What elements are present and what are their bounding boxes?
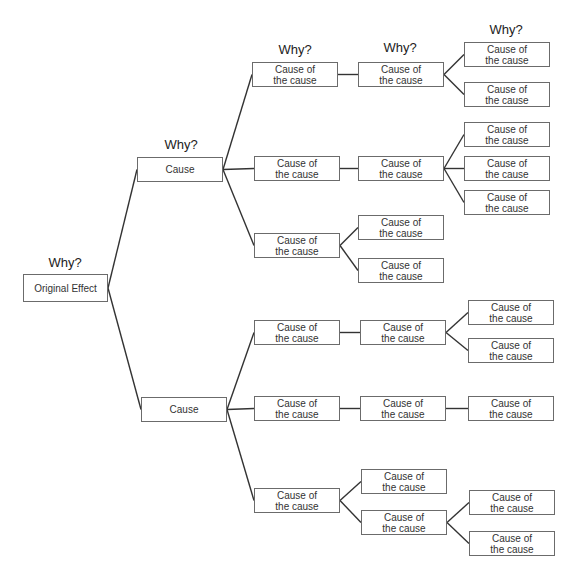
connector-line bbox=[223, 75, 252, 170]
cause-of-cause-box: Cause of the cause bbox=[360, 396, 446, 421]
cause-of-cause-box: Cause of the cause bbox=[361, 469, 447, 494]
connector-line bbox=[444, 55, 464, 75]
cause-of-cause-box: Cause of the cause bbox=[358, 156, 444, 181]
why-why-diagram: Why?Why?Why?Why?Why? Original EffectCaus… bbox=[0, 0, 578, 579]
cause-of-cause-box: Cause of the cause bbox=[254, 156, 340, 181]
connector-line bbox=[447, 523, 469, 544]
connector-line bbox=[444, 75, 464, 95]
why-label: Why? bbox=[383, 40, 416, 55]
cause-of-cause-box: Cause of the cause bbox=[254, 396, 340, 421]
cause-of-cause-box: Cause of the cause bbox=[358, 258, 444, 283]
connector-line bbox=[340, 482, 361, 501]
cause-of-cause-box: Cause of the cause bbox=[469, 490, 555, 515]
connector-line bbox=[227, 409, 254, 410]
connector-line bbox=[340, 228, 358, 246]
why-label: Why? bbox=[489, 22, 522, 37]
cause-of-cause-box: Cause of the cause bbox=[358, 215, 444, 240]
why-label: Why? bbox=[278, 42, 311, 57]
cause-of-cause-box: Cause of the cause bbox=[358, 62, 444, 87]
connector-line bbox=[444, 135, 464, 169]
cause-of-cause-box: Cause of the cause bbox=[254, 233, 340, 258]
cause-of-cause-box: Cause of the cause bbox=[469, 531, 555, 556]
why-label: Why? bbox=[164, 137, 197, 152]
connector-line bbox=[223, 170, 254, 246]
cause-of-cause-box: Cause of the cause bbox=[254, 320, 340, 345]
cause-of-cause-box: Cause of the cause bbox=[464, 82, 550, 107]
connector-line bbox=[340, 501, 361, 523]
cause-of-cause-box: Cause of the cause bbox=[464, 190, 550, 215]
connector-line bbox=[108, 170, 137, 289]
connector-line bbox=[223, 169, 254, 170]
cause-of-cause-box: Cause of the cause bbox=[252, 62, 338, 87]
cause-of-cause-box: Cause of the cause bbox=[468, 396, 554, 421]
cause-of-cause-box: Cause of the cause bbox=[468, 338, 554, 363]
cause-of-cause-box: Cause of the cause bbox=[464, 156, 550, 181]
connector-line bbox=[446, 313, 468, 333]
original-effect-box: Original Effect bbox=[23, 274, 108, 302]
cause-of-cause-box: Cause of the cause bbox=[468, 300, 554, 325]
cause-box: Cause bbox=[141, 397, 227, 422]
cause-of-cause-box: Cause of the cause bbox=[360, 320, 446, 345]
connector-line bbox=[446, 333, 468, 351]
connector-line bbox=[444, 169, 464, 203]
connector-line bbox=[447, 503, 469, 523]
cause-of-cause-box: Cause of the cause bbox=[254, 488, 340, 513]
cause-of-cause-box: Cause of the cause bbox=[464, 42, 550, 67]
why-label: Why? bbox=[48, 255, 81, 270]
connector-line bbox=[340, 246, 358, 271]
cause-of-cause-box: Cause of the cause bbox=[464, 122, 550, 147]
connector-line bbox=[108, 288, 141, 410]
connector-line bbox=[227, 333, 254, 410]
cause-of-cause-box: Cause of the cause bbox=[361, 510, 447, 535]
cause-box: Cause bbox=[137, 157, 223, 182]
connector-line bbox=[227, 410, 254, 501]
